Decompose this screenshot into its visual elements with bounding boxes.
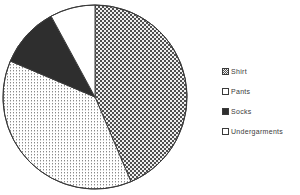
white-swatch-icon <box>222 128 229 135</box>
legend-item-label: Undergarments <box>231 127 283 136</box>
legend-item-label: Pants <box>231 87 250 96</box>
chart-legend: Shirt Pants Socks Undergarments <box>222 62 300 142</box>
legend-item-label: Shirt <box>231 67 247 76</box>
legend-item-shirt[interactable]: Shirt <box>222 62 300 80</box>
legend-item-socks[interactable]: Socks <box>222 102 300 120</box>
checkerboard-swatch-icon <box>222 68 229 75</box>
legend-item-label: Socks <box>231 107 252 116</box>
pie-chart-figure: Shirt Pants Socks Undergarments <box>0 0 300 195</box>
fine-dots-swatch-icon <box>222 88 229 95</box>
pie-plot-area <box>0 0 210 195</box>
legend-item-pants[interactable]: Pants <box>222 82 300 100</box>
pie-svg <box>0 0 210 195</box>
legend-item-undergarments[interactable]: Undergarments <box>222 122 300 140</box>
solid-dark-swatch-icon <box>222 108 229 115</box>
